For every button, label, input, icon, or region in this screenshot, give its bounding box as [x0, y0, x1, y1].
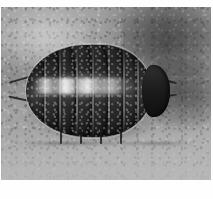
ground-crack: [14, 142, 199, 145]
woodlouse: [26, 45, 169, 137]
photo-canvas: [1, 7, 211, 180]
figure-photograph: [1, 7, 211, 180]
page: [0, 0, 213, 199]
carapace-pale-rim: [25, 43, 154, 138]
